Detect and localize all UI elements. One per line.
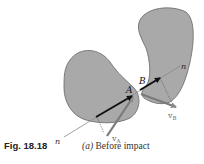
label-point-a: A [125, 85, 133, 95]
body-b [138, 8, 193, 104]
label-n-lower: n [55, 137, 60, 146]
caption-letter: (a) [82, 141, 93, 151]
figure-caption: (a) Before impact [82, 141, 150, 151]
figure-number: Fig. 18.18 [4, 140, 47, 151]
label-velocity-b: vB [167, 111, 177, 121]
caption-text: Before impact [95, 141, 149, 151]
label-point-b: B [138, 76, 146, 86]
label-n-upper: n [181, 62, 186, 71]
